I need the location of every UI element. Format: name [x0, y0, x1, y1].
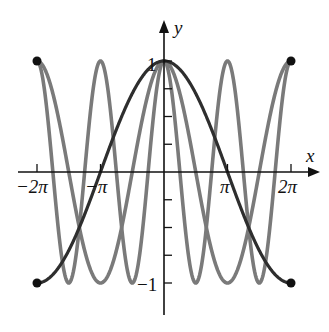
cosine-plot: y x 1 −1 −2π −π π 2π [0, 0, 329, 332]
x-axis-arrow-icon [308, 167, 320, 177]
y-axis-arrow-icon [159, 20, 169, 33]
endpoint-dot [287, 279, 296, 288]
y-axis-label: y [172, 17, 183, 38]
x-tick-label-neg-pi: −π [85, 176, 108, 197]
endpoint-dot [287, 57, 296, 66]
y-tick-label-1: 1 [147, 54, 157, 75]
endpoint-dot [32, 57, 41, 66]
y-tick-label-neg-1: −1 [137, 274, 157, 295]
x-tick-label-neg-2pi: −2π [16, 176, 48, 197]
x-axis-label: x [305, 145, 315, 166]
x-tick-label-2pi: 2π [278, 176, 298, 197]
x-tick-label-pi: π [220, 176, 230, 197]
endpoint-dot [32, 279, 41, 288]
